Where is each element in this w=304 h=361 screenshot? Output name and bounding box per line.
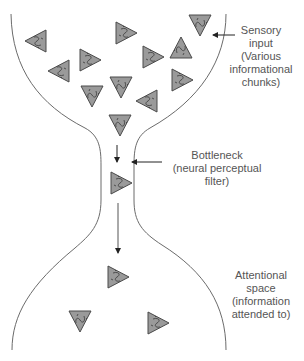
information-chunk-triangle-icon: [111, 172, 132, 194]
information-chunk-triangle-icon: [69, 311, 91, 332]
information-chunk-triangle-icon: [108, 266, 129, 288]
information-chunk-triangle-icon: [189, 15, 211, 36]
bottleneck-label: Bottleneck (neural perceptual filter): [152, 149, 282, 188]
label-line: input: [221, 37, 301, 50]
information-chunk-triangle-icon: [81, 86, 103, 107]
label-line: Attentional: [219, 269, 303, 282]
information-chunk-triangle-icon: [148, 312, 169, 334]
label-line: space: [219, 282, 303, 295]
information-chunk-triangle-icon: [170, 37, 192, 58]
information-chunk-triangle-icon: [109, 115, 131, 136]
information-chunk-triangle-icon: [25, 30, 46, 52]
label-line: (Various: [221, 50, 301, 63]
information-chunk-triangle-icon: [48, 60, 69, 82]
label-line: filter): [152, 175, 282, 188]
label-line: (neural perceptual: [152, 162, 282, 175]
information-chunk-triangle-icon: [136, 90, 157, 112]
sensory-input-label: Sensory input (Various informational chu…: [221, 24, 301, 89]
information-chunk-triangle-icon: [80, 49, 101, 71]
label-line: Bottleneck: [152, 149, 282, 162]
information-chunk-triangle-icon: [172, 69, 193, 91]
label-line: attended to): [219, 308, 303, 321]
label-line: Sensory: [221, 24, 301, 37]
label-line: informational: [221, 63, 301, 76]
information-chunk-triangle-icon: [110, 77, 132, 98]
attentional-space-label: Attentional space (information attended …: [219, 269, 303, 321]
information-chunk-triangle-icon: [116, 22, 137, 44]
information-chunk-triangle-icon: [143, 46, 164, 68]
label-line: chunks): [221, 76, 301, 89]
label-line: (information: [219, 295, 303, 308]
